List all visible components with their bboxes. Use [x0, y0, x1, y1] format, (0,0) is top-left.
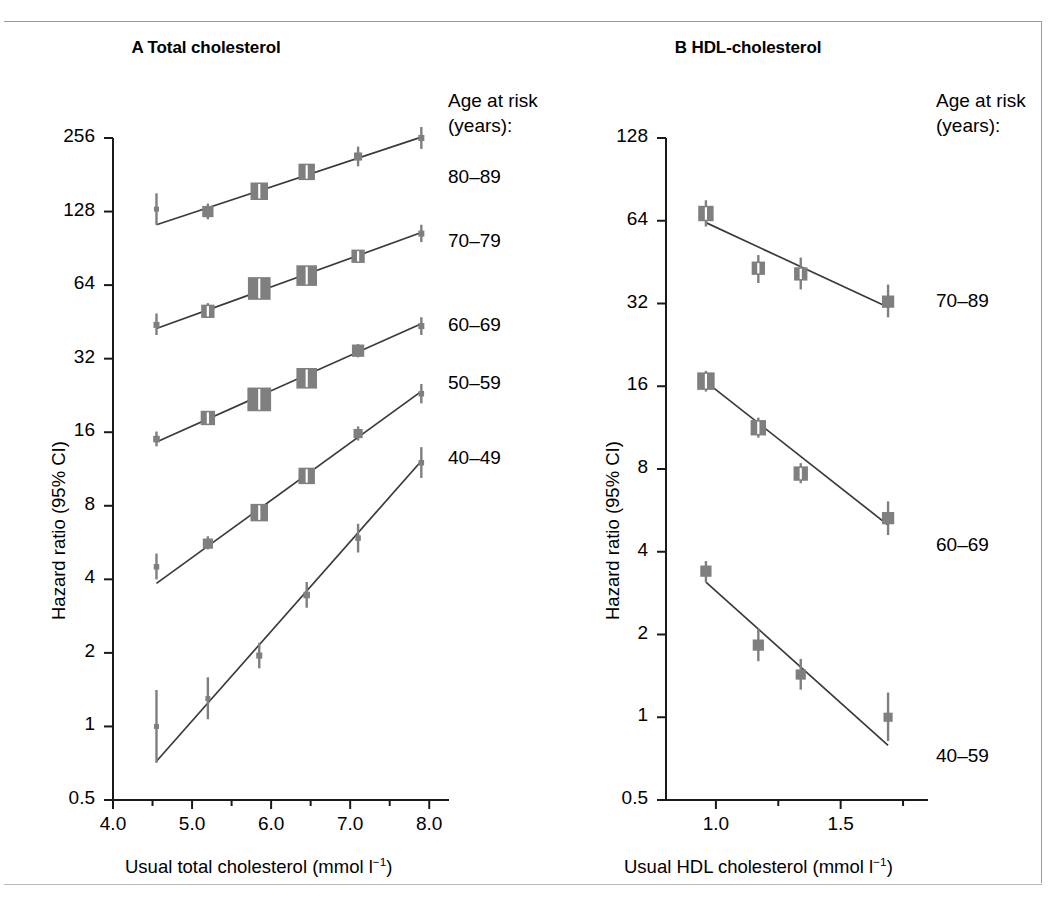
- y-tick-label: 4: [548, 539, 648, 561]
- y-tick-label: 256: [0, 125, 95, 147]
- x-axis-title: Usual HDL cholesterol (mmol l−1): [624, 855, 893, 878]
- y-tick-label: 2: [0, 640, 95, 662]
- legend-item-70-89: 70–89: [936, 290, 989, 312]
- figure-root: A Total cholesterol 25612864321684210.54…: [0, 0, 1048, 907]
- y-tick-label: 0.5: [0, 787, 95, 809]
- legend-item-40-49: 40–49: [448, 447, 501, 469]
- legend-item-70-79: 70–79: [448, 230, 501, 252]
- y-tick-label: 128: [0, 199, 95, 221]
- legend-item-60-69: 60–69: [936, 534, 989, 556]
- x-tick-label: 1.0: [676, 813, 756, 835]
- x-axis-title-exponent: −1: [373, 855, 387, 869]
- x-axis-title-close: ): [887, 856, 893, 877]
- y-tick-label: 16: [0, 419, 95, 441]
- y-tick-label: 128: [548, 125, 648, 147]
- x-tick-label: 7.0: [310, 813, 390, 835]
- legend-item-40-59: 40–59: [936, 745, 989, 767]
- y-tick-label: 0.5: [548, 787, 648, 809]
- y-tick-label: 2: [548, 622, 648, 644]
- y-tick-label: 1: [0, 713, 95, 735]
- legend-item-50-59: 50–59: [448, 372, 501, 394]
- y-tick-label: 32: [0, 346, 95, 368]
- x-axis-title-main: Usual total cholesterol (mmol l: [125, 856, 373, 877]
- x-axis-title-exponent: −1: [873, 855, 887, 869]
- y-axis-title: Hazard ratio (95% CI): [602, 441, 624, 620]
- y-tick-label: 16: [548, 373, 648, 395]
- x-axis-title: Usual total cholesterol (mmol l−1): [125, 855, 392, 878]
- panel-hdl-cholesterol: B HDL-cholesterol 12864321684210.51.01.5…: [524, 0, 1048, 907]
- y-tick-label: 64: [548, 208, 648, 230]
- x-tick-label: 1.5: [801, 813, 881, 835]
- legend-item-60-69: 60–69: [448, 314, 501, 336]
- y-tick-label: 32: [548, 291, 648, 313]
- legend-title-line2: (years):: [936, 113, 1026, 138]
- legend-title: Age at risk(years):: [936, 88, 1026, 138]
- legend-title-line1: Age at risk: [936, 88, 1026, 113]
- x-tick-label: 4.0: [73, 813, 153, 835]
- y-axis-title: Hazard ratio (95% CI): [48, 441, 70, 620]
- x-tick-label: 8.0: [389, 813, 469, 835]
- panel-total-cholesterol: A Total cholesterol 25612864321684210.54…: [0, 0, 524, 907]
- y-tick-label: 1: [548, 704, 648, 726]
- x-tick-label: 6.0: [231, 813, 311, 835]
- x-tick-label: 5.0: [152, 813, 232, 835]
- x-axis-title-close: ): [386, 856, 392, 877]
- x-axis-title-main: Usual HDL cholesterol (mmol l: [624, 856, 873, 877]
- y-tick-label: 8: [548, 456, 648, 478]
- legend-item-80-89: 80–89: [448, 166, 501, 188]
- y-tick-label: 64: [0, 272, 95, 294]
